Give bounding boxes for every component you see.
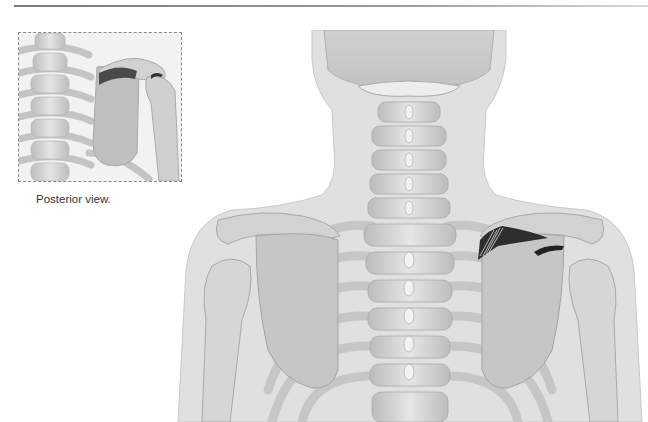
main-illustration bbox=[172, 30, 648, 422]
top-divider bbox=[14, 5, 648, 7]
inset-figure-posterior bbox=[18, 32, 182, 182]
inset-illustration bbox=[19, 33, 181, 181]
main-figure-posterior bbox=[172, 30, 648, 422]
inset-caption: Posterior view. bbox=[36, 193, 111, 205]
